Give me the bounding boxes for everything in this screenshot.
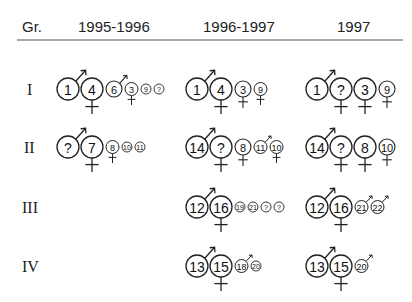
individual-unknown: 20 [251,261,261,271]
individual-id: ? [277,204,281,211]
individual-id: 16 [333,200,349,216]
individual-id: 10 [123,144,131,151]
male-symbol-icon [366,255,372,261]
individual-female: 15 [210,255,232,291]
individual-male: 22 [371,196,388,214]
individual-male: 11 [254,136,271,154]
male-symbol-icon [325,128,335,139]
individual-male: 6 [106,75,127,97]
individual-female: 8 [106,141,119,164]
male-symbol-icon [76,70,86,81]
individual-id: ? [337,140,345,156]
individual-id: 4 [88,82,96,98]
male-symbol-icon [325,188,335,199]
male-symbol-icon [325,247,335,258]
individual-id: 12 [309,200,325,216]
individual-female: 7 [81,136,103,172]
male-symbol-icon [382,196,388,202]
individual-female: 4 [81,78,103,114]
individual-id: ? [264,204,268,211]
individual-female: 9 [254,83,267,106]
individual-id: 16 [213,200,229,216]
individual-female: 3 [354,78,376,114]
individual-id: 1 [193,82,201,98]
individual-unknown: 11 [135,142,145,152]
group-row-III: III 12161921?? 12162122 [22,188,388,232]
cell-1995-1996: ?781011 [57,128,145,172]
individual-female: 8 [235,139,251,166]
individual-id: 12 [189,200,205,216]
individual-id: 18 [236,262,246,272]
period-header-1995-1996: 1995-1996 [78,18,150,35]
individual-id: 4 [217,82,225,98]
individual-female: 8 [354,136,376,172]
individual-id: 8 [240,142,246,154]
individual-id: 15 [333,259,349,275]
male-symbol-icon [265,136,271,142]
individual-id: 13 [309,259,325,275]
individual-unknown: ? [154,84,164,94]
individual-female: 3 [235,81,251,108]
cell-1997: 1?39 [306,70,395,114]
individual-female: 3 [125,83,138,106]
cell-1997: 131520 [306,247,372,291]
individual-id: ? [217,140,225,156]
individual-id: 8 [110,143,115,153]
individual-female: 16 [210,196,232,232]
individual-female: ? [330,136,352,172]
group-label: III [22,199,38,216]
individual-id: 15 [213,259,229,275]
male-symbol-icon [246,255,252,261]
individual-id: 22 [372,203,382,213]
individual-id: 1 [313,82,321,98]
individual-id: 13 [189,259,205,275]
individual-id: 3 [361,82,369,98]
individual-id: 20 [356,262,366,272]
group-label: I [27,81,32,98]
individual-id: 6 [111,84,117,96]
male-symbol-icon [120,75,127,83]
individual-id: 9 [384,84,390,96]
individual-female: 9 [379,81,395,108]
group-row-I: I 14639? 1439 1?39 [27,70,395,114]
cell-1996-1997: 14?81110 [186,128,283,172]
group-row-II: II ?781011 14?81110 14?810 [24,128,395,172]
individual-unknown: 10 [122,142,132,152]
cell-1995-1996: 14639? [57,70,164,114]
individual-unknown: ? [274,202,284,212]
individual-id: 3 [129,85,134,95]
individual-id: 3 [240,84,246,96]
individual-id: 1 [64,82,72,98]
individual-id: 10 [381,142,393,154]
individual-id: ? [64,140,72,156]
individual-id: 9 [144,86,148,93]
individual-id: 10 [271,143,281,153]
individual-female: 10 [379,139,395,166]
individual-id: 14 [309,140,325,156]
individual-male: 21 [355,196,372,214]
individual-id: 20 [252,263,260,270]
individual-unknown: 21 [248,202,258,212]
individual-unknown: ? [261,202,271,212]
individual-id: 21 [249,204,257,211]
male-symbol-icon [205,70,215,81]
group-row-IV: IV 13151820 131520 [22,247,372,291]
individual-female: 10 [270,141,283,164]
individual-id: 21 [356,203,366,213]
individual-id: 11 [256,143,265,153]
individual-female: ? [210,136,232,172]
individual-id: ? [337,82,345,98]
group-label: II [24,139,35,156]
individual-id: 8 [361,140,369,156]
individual-unknown: 19 [235,202,245,212]
individual-id: 14 [189,140,205,156]
individual-id: 11 [136,144,143,151]
individual-female: 15 [330,255,352,291]
table-header: Gr. 1995-1996 1996-1997 1997 [17,18,403,40]
male-symbol-icon [366,196,372,202]
male-symbol-icon [205,188,215,199]
male-symbol-icon [76,128,86,139]
individual-id: 19 [236,204,244,211]
group-label: IV [22,258,39,275]
cell-1997: 12162122 [306,188,388,232]
